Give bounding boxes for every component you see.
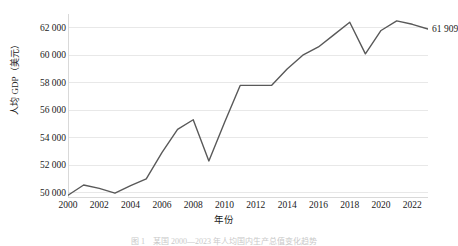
x-axis-tick-labels: 2000200220042006200820102012201420162018… <box>68 199 428 215</box>
x-tick-label: 2002 <box>90 199 109 211</box>
y-tick-label: 54 000 <box>16 133 66 143</box>
y-tick-label: 52 000 <box>16 160 66 170</box>
y-tick-label: 58 000 <box>16 78 66 88</box>
y-tick-label: 62 000 <box>16 23 66 33</box>
x-tick-label: 2006 <box>152 199 171 211</box>
gridlines <box>68 28 428 193</box>
x-tick-label: 2000 <box>59 199 78 211</box>
x-tick-label: 2014 <box>278 199 297 211</box>
y-tick-label: 60 000 <box>16 50 66 60</box>
x-tick-label: 2020 <box>372 199 391 211</box>
x-tick-label: 2008 <box>184 199 203 211</box>
data-line-series <box>68 21 428 195</box>
x-tick-label: 2016 <box>309 199 328 211</box>
x-axis-title: 年份 <box>0 214 448 226</box>
line-chart-svg <box>68 14 428 198</box>
x-tick-label: 2018 <box>340 199 359 211</box>
x-tick-label: 2010 <box>215 199 234 211</box>
x-tick-label: 2012 <box>246 199 265 211</box>
x-tick-label: 2022 <box>403 199 422 211</box>
plot-area <box>68 14 428 198</box>
y-tick-label: 56 000 <box>16 105 66 115</box>
figure-caption: 图 1 某国 2000—2023 年人均国内生产总值变化趋势 <box>0 237 448 246</box>
x-tick-label: 2004 <box>121 199 140 211</box>
end-value-data-label: 61 909 <box>432 24 458 35</box>
y-tick-label: 50 000 <box>16 188 66 198</box>
